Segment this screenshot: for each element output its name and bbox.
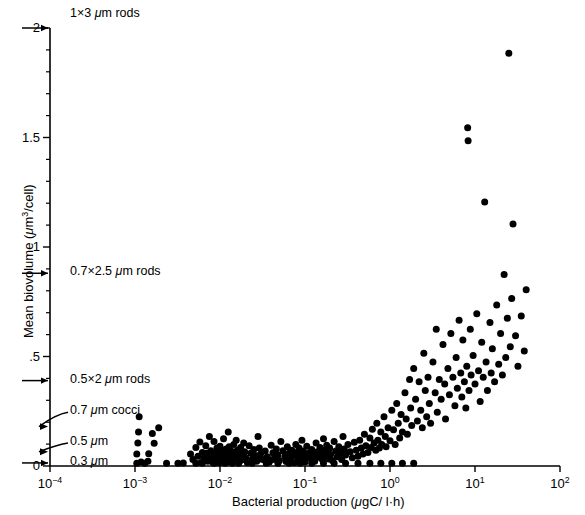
- data-point: [456, 317, 463, 324]
- data-point: [180, 459, 187, 466]
- annotation-arrow-bent: [39, 412, 68, 430]
- data-point: [249, 460, 256, 467]
- data-point: [447, 330, 454, 337]
- data-point: [298, 437, 305, 444]
- annotation-label-rods-05x2: 0.5×2 μm rods: [70, 372, 150, 386]
- data-point: [521, 348, 528, 355]
- data-point: [466, 387, 473, 394]
- data-point: [342, 460, 349, 467]
- data-point: [467, 326, 474, 333]
- data-point: [192, 460, 199, 467]
- data-point: [491, 378, 498, 385]
- y-tick-label: .5: [8, 349, 40, 364]
- data-point: [369, 426, 376, 433]
- data-point: [512, 332, 519, 339]
- y-axis-title: Mean biovolume (μm3/cell): [20, 184, 36, 338]
- data-point: [340, 433, 347, 440]
- data-point: [470, 352, 477, 359]
- data-point: [155, 424, 162, 431]
- data-point: [488, 369, 495, 376]
- x-tick-label: 10−2: [200, 475, 240, 491]
- annotation-arrow: [22, 377, 48, 383]
- data-point: [151, 440, 158, 447]
- data-point: [377, 460, 384, 467]
- data-point: [381, 413, 388, 420]
- data-point: [478, 339, 485, 346]
- annotation-arrow-bent: [39, 443, 68, 455]
- data-point: [296, 456, 303, 463]
- x-tick-label: 10−4: [30, 475, 70, 491]
- data-point: [433, 326, 440, 333]
- data-point: [417, 407, 424, 414]
- arrow-head: [40, 423, 48, 430]
- data-point: [495, 361, 502, 368]
- data-point: [523, 286, 530, 293]
- data-point: [320, 460, 327, 467]
- data-point-group: [133, 50, 529, 467]
- data-point: [388, 460, 395, 467]
- arrow-head: [41, 270, 48, 276]
- data-point: [423, 413, 430, 420]
- annotation-label-cocci-07: 0.7 μm cocci: [70, 403, 140, 417]
- data-point: [464, 124, 471, 131]
- data-point: [414, 418, 421, 425]
- data-point: [388, 407, 395, 414]
- y-tick-label: 0: [8, 458, 40, 473]
- data-point: [489, 345, 496, 352]
- data-point: [518, 312, 525, 319]
- data-point: [196, 438, 203, 445]
- data-point: [486, 319, 493, 326]
- data-point: [204, 456, 211, 463]
- data-point: [497, 330, 504, 337]
- data-point: [401, 389, 408, 396]
- data-point: [425, 374, 432, 381]
- data-point: [283, 456, 290, 463]
- data-point: [438, 396, 445, 403]
- data-point: [277, 438, 284, 445]
- x-tick-label: 10−1: [285, 475, 325, 491]
- data-point: [240, 456, 247, 463]
- data-point: [133, 450, 140, 457]
- data-point: [480, 374, 487, 381]
- arrow-shaft: [39, 412, 68, 426]
- data-point: [422, 387, 429, 394]
- data-point: [331, 438, 338, 445]
- data-point: [404, 431, 411, 438]
- data-point: [444, 365, 451, 372]
- data-point: [216, 456, 223, 463]
- data-point: [463, 363, 470, 370]
- data-point: [441, 380, 448, 387]
- data-point: [481, 199, 488, 206]
- arrow-head: [41, 25, 48, 31]
- data-point: [399, 460, 406, 467]
- data-point: [331, 460, 338, 467]
- annotation-label-rods-07x25: 0.7×2.5 μm rods: [70, 264, 161, 278]
- data-point: [149, 430, 156, 437]
- data-point: [459, 337, 466, 344]
- data-point: [427, 420, 434, 427]
- data-point: [458, 394, 465, 401]
- annotation-label-rods-1x3: 1×3 μm rods: [70, 6, 140, 20]
- data-point: [366, 460, 373, 467]
- data-point: [472, 380, 479, 387]
- data-point: [510, 221, 517, 228]
- data-point: [220, 435, 227, 442]
- data-point: [436, 376, 443, 383]
- data-point: [514, 363, 521, 370]
- data-point: [483, 358, 490, 365]
- data-point: [163, 460, 170, 467]
- data-point: [416, 378, 423, 385]
- data-point: [507, 343, 514, 350]
- data-point: [461, 378, 468, 385]
- data-point: [442, 415, 449, 422]
- data-point: [426, 400, 433, 407]
- x-tick-label: 100: [370, 475, 410, 491]
- data-point: [475, 367, 482, 374]
- x-axis-title: Bacterial production (μgC/ l·h): [232, 494, 405, 509]
- data-point: [392, 441, 399, 448]
- y-tick-label: 2: [8, 20, 40, 35]
- data-point: [410, 460, 417, 467]
- data-point: [390, 426, 397, 433]
- data-point: [134, 440, 141, 447]
- data-point: [395, 420, 402, 427]
